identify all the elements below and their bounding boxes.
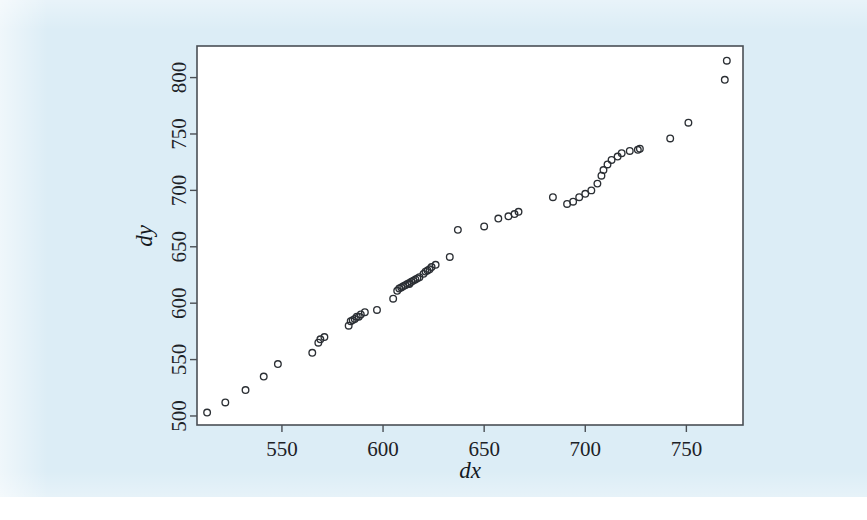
- plot-area-background: [197, 46, 743, 425]
- y-tick-label-550: 550: [167, 344, 191, 376]
- figure-page: 550600650700750 500550600650700750800 dx…: [0, 0, 867, 520]
- y-tick-label-800: 800: [167, 62, 191, 94]
- y-tick-label-750: 750: [167, 118, 191, 150]
- y-tick-label-600: 600: [167, 287, 191, 319]
- y-axis-ticks: [190, 78, 197, 416]
- x-axis-ticks: [282, 425, 686, 432]
- x-tick-label-600: 600: [367, 437, 399, 461]
- y-axis-tick-labels: 500550600650700750800: [167, 62, 191, 432]
- x-axis-tick-labels: 550600650700750: [266, 437, 702, 461]
- y-axis-title: dy: [132, 224, 157, 247]
- y-tick-label-650: 650: [167, 231, 191, 263]
- scatter-figure: 550600650700750 500550600650700750800 dx…: [0, 0, 867, 497]
- scatter-plot: 550600650700750 500550600650700750800 dx…: [0, 0, 867, 497]
- x-tick-label-550: 550: [266, 437, 298, 461]
- x-axis-title: dx: [459, 458, 482, 483]
- y-tick-label-700: 700: [167, 175, 191, 207]
- y-tick-label-500: 500: [167, 400, 191, 432]
- x-tick-label-700: 700: [570, 437, 602, 461]
- x-tick-label-750: 750: [671, 437, 703, 461]
